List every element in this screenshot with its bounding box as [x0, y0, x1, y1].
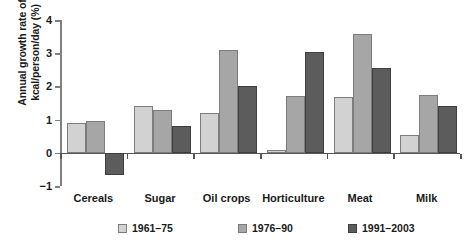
y-axis-line	[60, 20, 62, 186]
x-axis-tick	[460, 154, 462, 159]
bar-chart: Annual growth rate of kcal/person/day (%…	[0, 0, 476, 247]
legend-swatch-icon	[118, 224, 127, 233]
y-axis-tick-label: −1	[39, 180, 52, 192]
bar	[419, 95, 438, 153]
bar	[86, 121, 105, 153]
bar	[153, 110, 172, 152]
bar	[438, 106, 457, 153]
y-axis-title-line-2: kcal/person/day (%)	[28, 0, 41, 133]
x-axis-category-label: Oil crops	[203, 192, 251, 204]
y-axis-title-line-1: Annual growth rate of	[16, 0, 29, 133]
bar-group	[67, 20, 124, 186]
bar	[238, 86, 257, 152]
bar	[305, 52, 324, 153]
y-axis-tick	[55, 53, 60, 55]
x-axis-category-label: Sugar	[144, 192, 175, 204]
bar	[134, 106, 153, 152]
bar-group	[200, 20, 257, 186]
x-axis-category-label: Milk	[416, 192, 437, 204]
legend-label: 1976–90	[252, 222, 293, 234]
bar	[200, 113, 219, 153]
x-axis-tick	[260, 154, 262, 159]
legend-label: 1991–2003	[362, 222, 415, 234]
x-axis-tick	[60, 154, 62, 159]
legend-swatch-icon	[238, 224, 247, 233]
bar	[372, 68, 391, 153]
x-axis-tick	[393, 154, 395, 159]
bar	[67, 123, 86, 153]
legend-item-3[interactable]: 1991–2003	[348, 222, 415, 234]
y-axis-tick-label: 4	[46, 14, 52, 26]
bar-group	[400, 20, 457, 186]
chart-legend: 1961–751976–901991–2003	[0, 222, 476, 242]
bar-group	[334, 20, 391, 186]
bar	[267, 150, 286, 153]
bar	[400, 135, 419, 153]
legend-swatch-icon	[348, 224, 357, 233]
y-axis-title: Annual growth rate of kcal/person/day (%…	[16, 0, 41, 133]
bar	[286, 96, 305, 153]
plot-area: −101234	[60, 20, 460, 186]
y-axis-tick	[55, 86, 60, 88]
x-axis-tick	[127, 154, 129, 159]
bar-group	[267, 20, 324, 186]
x-axis-category-label: Cereals	[73, 192, 113, 204]
legend-label: 1961–75	[132, 222, 173, 234]
bar-group	[134, 20, 191, 186]
y-axis-tick-label: 1	[46, 114, 52, 126]
bar	[105, 153, 124, 175]
y-axis-tick	[55, 20, 60, 22]
y-axis-tick	[55, 120, 60, 122]
y-axis-tick-label: 0	[46, 147, 52, 159]
bar	[353, 34, 372, 153]
legend-item-2[interactable]: 1976–90	[238, 222, 293, 234]
y-axis-tick-label: 2	[46, 80, 52, 92]
bar	[172, 126, 191, 153]
bar	[334, 97, 353, 152]
x-axis-category-label: Horticulture	[262, 192, 324, 204]
bar	[219, 50, 238, 153]
legend-item-1[interactable]: 1961–75	[118, 222, 173, 234]
x-axis-tick	[327, 154, 329, 159]
y-axis-tick-label: 3	[46, 47, 52, 59]
x-axis-tick	[193, 154, 195, 159]
x-axis-category-label: Meat	[347, 192, 372, 204]
y-axis-tick	[55, 186, 60, 188]
